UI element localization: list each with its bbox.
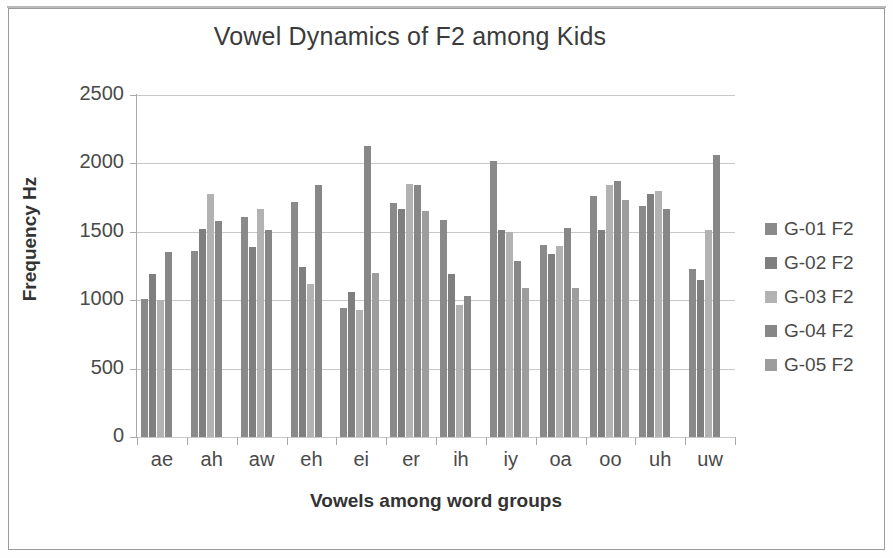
x-axis-tick [237, 437, 238, 445]
bar-group [490, 95, 534, 437]
bar [498, 230, 505, 437]
y-axis-tick-label: 1500 [50, 219, 124, 242]
x-axis-tick-label: uh [635, 448, 685, 471]
legend-label: G-02 F2 [784, 252, 854, 274]
x-axis-tick [137, 437, 138, 445]
bar [697, 280, 704, 437]
legend-label: G-03 F2 [784, 286, 854, 308]
y-axis-tick [130, 369, 137, 370]
y-axis-title: Frequency Hz [19, 139, 41, 339]
bar [689, 269, 696, 437]
bar [141, 299, 148, 437]
y-axis-tick [130, 437, 137, 438]
x-axis-tick-label: er [386, 448, 436, 471]
legend-item: G-02 F2 [765, 246, 883, 280]
x-axis-tick-label: uw [685, 448, 735, 471]
x-axis-tick-label: iy [486, 448, 536, 471]
bar [655, 191, 662, 437]
bar [364, 146, 371, 437]
x-axis-tick [187, 437, 188, 445]
y-axis-tick-label: 0 [50, 424, 124, 447]
plot-area [137, 95, 735, 437]
x-axis-tick-label: ei [336, 448, 386, 471]
bar-group [639, 95, 683, 437]
bar-group [141, 95, 185, 437]
bar-group [540, 95, 584, 437]
legend-swatch-icon [765, 325, 777, 337]
y-axis-tick-labels: 25002000150010005000 [44, 95, 124, 437]
legend-item: G-01 F2 [765, 212, 883, 246]
bar [356, 310, 363, 437]
legend-label: G-04 F2 [784, 320, 854, 342]
legend-swatch-icon [765, 223, 777, 235]
chart-title: Vowel Dynamics of F2 among Kids [60, 22, 760, 51]
bar [614, 181, 621, 437]
y-axis-tick-label: 2000 [50, 150, 124, 173]
legend-item: G-05 F2 [765, 348, 883, 382]
bar [241, 217, 248, 437]
x-axis-title: Vowels among word groups [137, 490, 735, 512]
x-axis-tick [287, 437, 288, 445]
bar [299, 267, 306, 437]
bar-group [440, 95, 484, 437]
bar [490, 161, 497, 437]
bar [663, 209, 670, 437]
bar [440, 220, 447, 438]
bar [540, 245, 547, 437]
x-axis-tick-label: aw [237, 448, 287, 471]
bar [464, 296, 471, 437]
x-axis-tick [386, 437, 387, 445]
x-axis-tick [536, 437, 537, 445]
bar [414, 185, 421, 437]
bar-group [340, 95, 384, 437]
bar [348, 292, 355, 437]
bar-group [191, 95, 235, 437]
x-axis-tick [436, 437, 437, 445]
bar [564, 228, 571, 437]
bar-group [390, 95, 434, 437]
bar [199, 229, 206, 437]
bar [291, 202, 298, 437]
x-axis-tick-label: oa [536, 448, 586, 471]
bar [506, 232, 513, 437]
bar [622, 200, 629, 437]
x-axis-tick-label: ah [187, 448, 237, 471]
bar [165, 252, 172, 437]
x-axis-tick-label: eh [287, 448, 337, 471]
bar [307, 284, 314, 437]
bar [315, 185, 322, 437]
chart-legend: G-01 F2G-02 F2G-03 F2G-04 F2G-05 F2 [765, 212, 883, 382]
x-axis-tick [486, 437, 487, 445]
x-axis-tick [635, 437, 636, 445]
bar [215, 221, 222, 437]
x-axis-tick [685, 437, 686, 445]
bar [456, 305, 463, 437]
x-axis-tick [735, 437, 736, 445]
bar-group [590, 95, 634, 437]
legend-label: G-01 F2 [784, 218, 854, 240]
y-axis-tick [130, 163, 137, 164]
y-axis-tick-label: 2500 [50, 82, 124, 105]
legend-swatch-icon [765, 291, 777, 303]
bar [522, 288, 529, 437]
bar-series-container [137, 95, 735, 437]
bar [448, 274, 455, 437]
bar [207, 194, 214, 438]
y-axis-tick [130, 300, 137, 301]
legend-label: G-05 F2 [784, 354, 854, 376]
bar [422, 211, 429, 437]
bar [249, 247, 256, 437]
bar [514, 261, 521, 437]
x-axis-tick-label: ae [137, 448, 187, 471]
bar [639, 206, 646, 437]
bar [191, 251, 198, 437]
bar [257, 209, 264, 437]
bar [590, 196, 597, 437]
bar [598, 230, 605, 437]
bar [390, 203, 397, 437]
y-axis-tick [130, 232, 137, 233]
bar [398, 209, 405, 437]
bar [556, 246, 563, 437]
x-axis-tick-label: oo [586, 448, 636, 471]
x-axis-tick [336, 437, 337, 445]
